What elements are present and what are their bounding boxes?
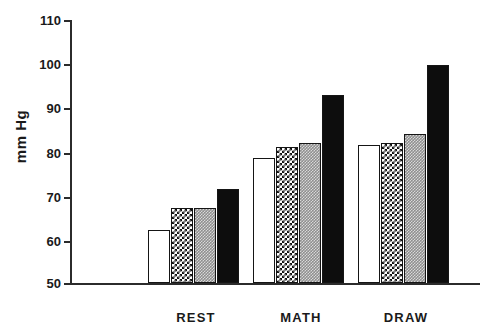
- x-axis-line: [70, 283, 480, 285]
- tick-mark-70: [64, 197, 71, 199]
- tick-label-110: 110: [40, 13, 61, 28]
- tick-mark-90: [64, 108, 71, 110]
- bar-group-draw: [358, 20, 454, 283]
- tick-label-100: 100: [39, 57, 61, 72]
- tick-label-90: 90: [47, 101, 61, 116]
- tick-mark-110: [64, 20, 71, 22]
- bar-draw-checkered: [381, 143, 403, 283]
- y-axis-title: mm Hg: [12, 87, 29, 187]
- tick-mark-60: [64, 241, 71, 243]
- x-category-label-math: MATH: [280, 310, 321, 325]
- bar-math-open: [253, 158, 275, 283]
- bar-math-checkered: [276, 147, 298, 283]
- tick-label-80: 80: [47, 145, 61, 160]
- bar-rest-checkered: [171, 208, 193, 283]
- x-category-label-draw: DRAW: [384, 310, 429, 325]
- bar-rest-solid: [217, 189, 239, 283]
- bar-group-rest: [148, 20, 244, 283]
- tick-mark-100: [64, 64, 71, 66]
- plot-area: 110 100 90 80 70 60 50: [70, 20, 480, 285]
- bar-draw-gray: [404, 134, 426, 283]
- tick-label-50: 50: [47, 276, 61, 291]
- bar-rest-gray: [194, 208, 216, 283]
- bar-math-solid: [322, 95, 344, 283]
- tick-label-70: 70: [47, 189, 61, 204]
- tick-mark-80: [64, 153, 71, 155]
- bar-draw-open: [358, 145, 380, 283]
- bar-group-math: [253, 20, 349, 283]
- bar-draw-solid: [427, 65, 449, 283]
- x-category-label-rest: REST: [176, 310, 215, 325]
- bar-rest-open: [148, 230, 170, 283]
- tick-mark-50: [64, 283, 71, 285]
- bar-math-gray: [299, 143, 321, 283]
- tick-label-60: 60: [47, 233, 61, 248]
